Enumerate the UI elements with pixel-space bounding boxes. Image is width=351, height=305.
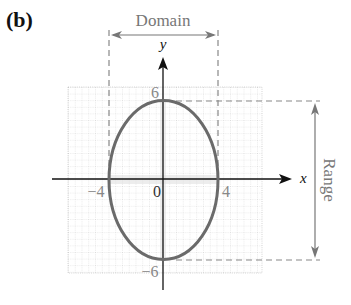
x-axis-label: x [299,170,307,186]
tick-label-y-6: 6 [151,84,159,101]
range-arrow [311,103,319,258]
panel-label: (b) [6,7,33,32]
y-axis-label: y [158,36,167,52]
tick-label-y-neg6: −6 [141,263,158,280]
tick-label-origin: 0 [153,183,161,200]
range-label: Range [320,158,339,201]
tick-label-x-4: 4 [222,183,230,200]
grid [68,87,262,273]
domain-label: Domain [136,11,191,30]
tick-label-x-neg4: −4 [87,183,104,200]
ellipse-figure: (b) Domain Range x y [0,0,351,305]
